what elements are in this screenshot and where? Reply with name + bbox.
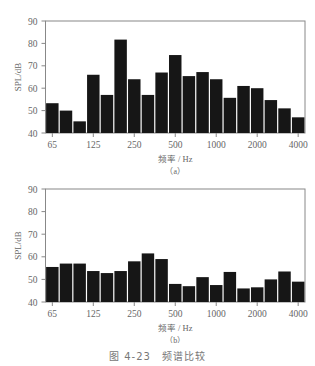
- y-tick-label: 90: [28, 185, 38, 195]
- x-tick-label: 1000: [207, 140, 226, 150]
- x-axis-label: 频率 / Hz: [158, 154, 193, 164]
- bar-3150hz: [278, 271, 290, 302]
- bar-80hz: [60, 264, 72, 302]
- bar-3150hz: [278, 108, 290, 133]
- y-tick-label: 80: [28, 39, 38, 49]
- bar-315hz: [142, 95, 154, 133]
- bar-63hz: [46, 103, 58, 133]
- x-tick-label: 65: [48, 309, 58, 319]
- x-tick-label: 65: [48, 140, 58, 150]
- x-tick-label: 500: [168, 309, 183, 319]
- bar-4000hz: [292, 117, 304, 133]
- bar-800hz: [196, 72, 208, 133]
- y-tick-label: 60: [28, 84, 38, 94]
- chart-panel-b: 40506070809065125250500100020004000SPL/d…: [0, 168, 315, 343]
- bar-125hz: [87, 271, 99, 302]
- bar-200hz: [114, 271, 126, 302]
- bar-800hz: [196, 277, 208, 302]
- bar-1000hz: [210, 285, 222, 302]
- y-tick-label: 60: [28, 252, 38, 262]
- panel-label: （b）: [165, 336, 185, 343]
- bar-1600hz: [237, 288, 249, 302]
- x-tick-label: 500: [168, 140, 183, 150]
- y-tick-label: 90: [28, 17, 38, 27]
- x-tick-label: 4000: [289, 309, 308, 319]
- y-tick-label: 50: [28, 275, 38, 285]
- bar-4000hz: [292, 282, 304, 302]
- bar-chart-a: 40506070809065125250500100020004000SPL/d…: [0, 0, 315, 175]
- y-axis-label: SPL/dB: [13, 231, 23, 260]
- bar-160hz: [101, 95, 113, 133]
- y-axis-label: SPL/dB: [13, 63, 23, 92]
- x-tick-label: 1000: [207, 309, 226, 319]
- bar-500hz: [169, 284, 181, 302]
- bar-400hz: [155, 73, 167, 133]
- bar-2500hz: [265, 279, 277, 302]
- bar-chart-b: 40506070809065125250500100020004000SPL/d…: [0, 168, 315, 343]
- y-tick-label: 70: [28, 61, 38, 71]
- bar-1600hz: [237, 86, 249, 133]
- x-tick-label: 125: [86, 309, 101, 319]
- x-tick-label: 2000: [248, 140, 267, 150]
- bar-315hz: [142, 253, 154, 302]
- bar-2000hz: [251, 88, 263, 133]
- figure-caption: 图 4-23 频谱比较: [0, 348, 315, 363]
- bar-2000hz: [251, 287, 263, 302]
- bar-100hz: [73, 264, 85, 302]
- bar-250hz: [128, 261, 140, 302]
- bar-2500hz: [265, 100, 277, 133]
- bar-80hz: [60, 111, 72, 133]
- y-tick-label: 50: [28, 106, 38, 116]
- bar-630hz: [183, 286, 195, 302]
- bar-series: [46, 253, 304, 302]
- bar-100hz: [73, 121, 85, 133]
- bar-630hz: [183, 76, 195, 133]
- y-tick-label: 40: [28, 298, 38, 308]
- x-tick-label: 125: [86, 140, 101, 150]
- x-tick-label: 4000: [289, 140, 308, 150]
- x-axis-label: 频率 / Hz: [158, 323, 193, 333]
- bar-160hz: [101, 273, 113, 302]
- bar-63hz: [46, 267, 58, 302]
- y-tick-label: 70: [28, 230, 38, 240]
- bar-125hz: [87, 75, 99, 133]
- bar-250hz: [128, 79, 140, 133]
- y-tick-label: 40: [28, 129, 38, 139]
- bar-1000hz: [210, 79, 222, 133]
- bar-series: [46, 40, 304, 133]
- chart-panel-a: 40506070809065125250500100020004000SPL/d…: [0, 0, 315, 175]
- bar-1250hz: [224, 272, 236, 302]
- x-tick-label: 2000: [248, 309, 267, 319]
- y-tick-label: 80: [28, 207, 38, 217]
- bar-1250hz: [224, 98, 236, 133]
- bar-200hz: [114, 40, 126, 133]
- x-tick-label: 250: [127, 309, 142, 319]
- bar-400hz: [155, 259, 167, 302]
- x-tick-label: 250: [127, 140, 142, 150]
- bar-500hz: [169, 55, 181, 133]
